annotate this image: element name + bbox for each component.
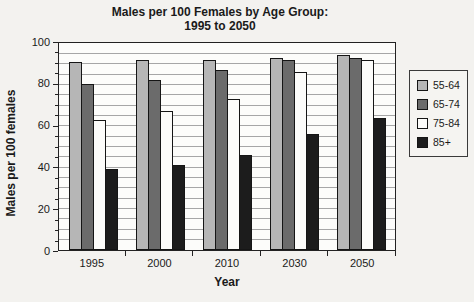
y-tick-mark (53, 251, 58, 252)
x-tick-label: 2000 (129, 257, 189, 269)
chart-title-line1: Males per 100 Females by Age Group: (0, 5, 440, 19)
legend-swatch (417, 137, 428, 148)
y-minor-tick-mark (55, 230, 58, 231)
bar-85+ (105, 169, 118, 250)
y-tick-mark (53, 84, 58, 85)
y-tick-label: 20 (16, 203, 50, 216)
bar-chart: Males per 100 Females by Age Group: 1995… (0, 0, 474, 302)
y-minor-tick-mark (55, 220, 58, 221)
legend-label: 85+ (433, 136, 451, 148)
legend-swatch (417, 118, 428, 129)
bar-group (328, 43, 395, 250)
y-minor-tick-mark (55, 94, 58, 95)
y-tick-mark (53, 209, 58, 210)
x-tick-mark (260, 251, 261, 256)
x-tick-label: 1995 (62, 257, 122, 269)
y-minor-tick-mark (55, 147, 58, 148)
legend-item-75-84: 75-84 (417, 117, 467, 129)
y-tick-label: 0 (16, 245, 50, 258)
y-minor-tick-mark (55, 52, 58, 53)
legend-item-55-64: 55-64 (417, 79, 467, 91)
bar-85+ (306, 134, 319, 250)
y-minor-tick-mark (55, 157, 58, 158)
bar-85+ (239, 155, 252, 250)
legend: 55-6465-7475-8485+ (409, 70, 468, 157)
x-axis-title: Year (58, 275, 396, 289)
bar-group (126, 43, 193, 250)
x-tick-mark (192, 251, 193, 256)
y-minor-tick-mark (55, 241, 58, 242)
y-minor-tick-mark (55, 199, 58, 200)
x-tick-label: 2010 (197, 257, 257, 269)
y-tick-label: 40 (16, 161, 50, 174)
y-minor-tick-mark (55, 63, 58, 64)
x-tick-label: 2050 (332, 257, 392, 269)
x-tick-mark (395, 251, 396, 256)
y-tick-mark (53, 42, 58, 43)
y-minor-tick-mark (55, 188, 58, 189)
chart-title-line2: 1995 to 2050 (0, 19, 440, 33)
x-tick-mark (327, 251, 328, 256)
y-minor-tick-mark (55, 105, 58, 106)
bar-85+ (373, 118, 386, 250)
legend-item-85+: 85+ (417, 136, 467, 148)
x-tick-mark (125, 251, 126, 256)
legend-item-65-74: 65-74 (417, 98, 467, 110)
y-tick-label: 80 (16, 77, 50, 90)
y-minor-tick-mark (55, 178, 58, 179)
y-tick-mark (53, 126, 58, 127)
y-minor-tick-mark (55, 115, 58, 116)
y-tick-mark (53, 167, 58, 168)
legend-swatch (417, 80, 428, 91)
legend-label: 75-84 (433, 117, 460, 129)
legend-label: 65-74 (433, 98, 460, 110)
plot-area (58, 42, 396, 251)
legend-label: 55-64 (433, 79, 460, 91)
y-minor-tick-mark (55, 136, 58, 137)
bar-group (261, 43, 328, 250)
y-tick-label: 100 (16, 36, 50, 49)
y-minor-tick-mark (55, 73, 58, 74)
x-tick-label: 2030 (265, 257, 325, 269)
bar-group (193, 43, 260, 250)
legend-swatch (417, 99, 428, 110)
chart-title: Males per 100 Females by Age Group: 1995… (0, 5, 440, 33)
y-tick-label: 60 (16, 119, 50, 132)
bar-85+ (172, 165, 185, 250)
bar-group (59, 43, 126, 250)
